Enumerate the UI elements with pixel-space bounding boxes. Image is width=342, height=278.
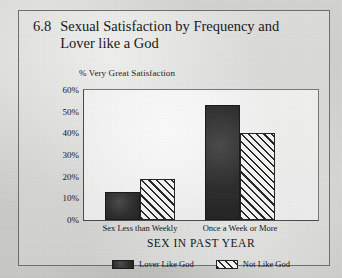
legend-item-lover-like-god: Lover Like God	[112, 259, 194, 269]
y-tick-label: 20%	[63, 172, 80, 182]
legend-label: Lover Like God	[139, 259, 194, 269]
bar-once-a-week-or-more-lover-like-god	[205, 105, 240, 220]
legend-label: Not Like God	[243, 259, 290, 269]
plot-area: 60% 50% 40% 30% 20% 10% 0% Sex Less than…	[83, 89, 319, 221]
page-background: 6.8 Sexual Satisfaction by Frequency and…	[0, 0, 342, 278]
y-tick-label: 60%	[63, 85, 80, 95]
bar-less-than-weekly-not-like-god	[140, 179, 175, 220]
y-tick-label: 40%	[63, 128, 80, 138]
legend-item-not-like-god: Not Like God	[216, 259, 290, 269]
legend-swatch-hatched-icon	[216, 260, 238, 269]
legend-swatch-solid-icon	[112, 260, 134, 269]
chart-legend: Lover Like God Not Like God	[83, 259, 319, 269]
x-axis-title: SEX IN PAST YEAR	[83, 237, 319, 249]
bar-once-a-week-or-more-not-like-god	[240, 133, 275, 220]
y-tick-label: 10%	[63, 193, 80, 203]
x-tick-label-less-than-weekly: Sex Less than Weekly	[103, 223, 178, 233]
figure-title-block: 6.8 Sexual Satisfaction by Frequency and…	[33, 18, 313, 52]
page-title: Sexual Satisfaction by Frequency and Lov…	[60, 18, 313, 52]
x-tick-label-once-a-week-or-more: Once a Week or More	[203, 223, 278, 233]
y-axis-caption: % Very Great Satisfaction	[79, 68, 175, 78]
figure-number: 6.8	[33, 18, 51, 35]
bar-less-than-weekly-lover-like-god	[105, 192, 140, 220]
y-tick-label: 30%	[63, 150, 80, 160]
figure-frame: 6.8 Sexual Satisfaction by Frequency and…	[18, 10, 330, 266]
y-tick-label: 0%	[67, 215, 79, 225]
y-tick-label: 50%	[63, 107, 80, 117]
